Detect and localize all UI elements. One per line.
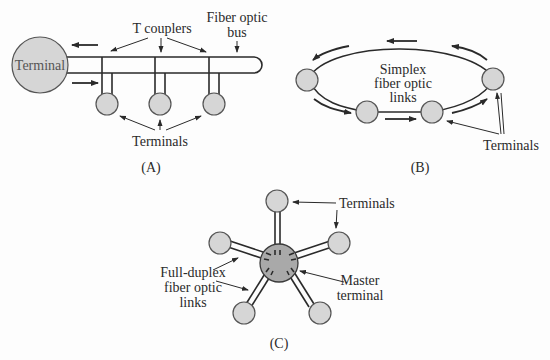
- fiber-optic-bus-label-line2: bus: [227, 25, 246, 40]
- ring-terminal-1: [296, 69, 318, 91]
- t-coupler-3: [209, 57, 219, 97]
- t-coupler-1: [102, 57, 112, 97]
- panel-c-star-topology: Terminals Full-duplex fiber optic links …: [160, 190, 394, 352]
- fiber-optic-bus: [66, 57, 262, 73]
- pointer-arrow-icon: [120, 116, 155, 130]
- duplex-link-bottom-right: [289, 272, 314, 307]
- full-duplex-label-line1: Full-duplex: [160, 265, 225, 280]
- caption-c: (C): [270, 336, 289, 352]
- pointer-arrow-icon: [336, 210, 337, 228]
- main-terminal-label: Terminal: [15, 58, 65, 73]
- bus-terminal-3: [203, 93, 225, 115]
- master-terminal-label-line2: terminal: [337, 288, 384, 303]
- flow-arrow-icon: [452, 46, 487, 60]
- pointer-arrow-icon: [111, 38, 148, 51]
- pointer-arrow-icon: [167, 38, 206, 52]
- flow-arrow-icon: [314, 99, 351, 113]
- panel-b-ring-topology: Simplex fiber optic links Terminals (B): [296, 41, 539, 176]
- star-terminal-top: [266, 190, 288, 212]
- terminals-label-a: Terminals: [132, 134, 188, 149]
- master-terminal: [260, 244, 298, 282]
- simplex-label-line3: links: [389, 90, 416, 105]
- duplex-link-left: [228, 241, 266, 259]
- panel-a-bus-topology: Terminal T couplers Fiber optic bus: [12, 10, 268, 176]
- fiber-optic-bus-label-line1: Fiber optic: [206, 10, 267, 25]
- simplex-label-line1: Simplex: [380, 62, 427, 77]
- full-duplex-label-line3: links: [179, 295, 206, 310]
- bus-terminal-2: [149, 93, 171, 115]
- flow-arrow-icon: [313, 46, 349, 60]
- simplex-label-line2: fiber optic: [374, 76, 432, 91]
- pointer-arrow-icon: [300, 271, 344, 282]
- ring-terminal-3: [421, 101, 443, 123]
- caption-b: (B): [411, 160, 430, 176]
- pointer-arrow-icon: [501, 93, 504, 134]
- duplex-link-right: [294, 241, 332, 259]
- t-coupler-2: [155, 57, 165, 97]
- pointer-arrow-icon: [293, 202, 336, 203]
- terminals-label-c: Terminals: [339, 196, 395, 211]
- bus-terminal-1: [96, 93, 118, 115]
- pointer-arrow-icon: [166, 116, 201, 130]
- star-terminal-bottom-right: [309, 302, 331, 324]
- t-couplers-label: T couplers: [132, 21, 191, 36]
- full-duplex-label-line2: fiber optic: [164, 280, 222, 295]
- terminals-label-b: Terminals: [483, 138, 539, 153]
- pointer-arrow-icon: [447, 121, 499, 134]
- ring-terminal-4: [482, 68, 504, 90]
- star-terminal-left: [209, 232, 231, 254]
- caption-a: (A): [141, 160, 161, 176]
- star-terminal-right: [328, 232, 350, 254]
- pointer-arrow-icon: [497, 93, 501, 134]
- network-topology-diagram: Terminal T couplers Fiber optic bus: [0, 0, 550, 360]
- ring-terminal-2: [356, 101, 378, 123]
- master-terminal-label-line1: Master: [341, 273, 380, 288]
- star-terminal-bottom-left: [233, 302, 255, 324]
